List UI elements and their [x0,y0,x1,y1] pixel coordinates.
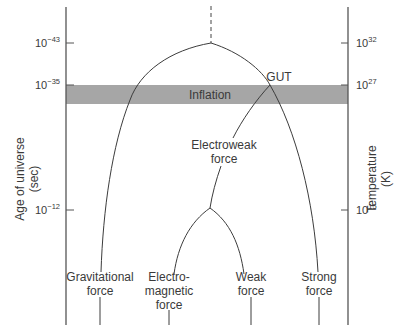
electroweak-branch-lower [210,166,221,208]
weak-label-line1: Weak [226,270,276,284]
left-axis-label-line2: (sec) [27,134,41,224]
right-axis-label: Temperature (K) [365,134,393,224]
strong-label-line1: Strong [294,270,344,284]
electroweak-label-line2: force [184,152,264,166]
weak-force-label: Weak force [226,270,276,298]
electromagnetic-label-line2: magnetic [139,284,199,298]
electromagnetic-branch [174,208,210,274]
gravitational-label-line2: force [60,284,140,298]
right-tick-label-27: 1027 [356,79,377,91]
right-axis-label-line1: Temperature [365,134,379,224]
weak-branch [210,208,244,274]
electroweak-label: Electroweak force [184,138,264,166]
gut-label: GUT [264,70,294,84]
electromagnetic-label-line1: Electro- [139,270,199,284]
left-tick-label-43: 10−43 [35,37,60,49]
weak-label-line2: force [226,284,276,298]
strong-force-label: Strong force [294,270,344,298]
strong-label-line2: force [294,284,344,298]
electroweak-label-line1: Electroweak [184,138,264,152]
electromagnetic-force-label: Electro- magnetic force [139,270,199,312]
left-axis-label-line1: Age of universe [13,134,27,224]
left-axis-label: Age of universe (sec) [13,134,41,224]
inflation-label: Inflation [175,88,245,102]
gravitational-label-line1: Gravitational [60,270,140,284]
left-tick-label-35: 10−35 [35,79,60,91]
right-axis-label-line2: (K) [379,134,393,224]
electromagnetic-label-line3: force [139,298,199,312]
gravitational-force-label: Gravitational force [60,270,140,298]
right-tick-label-32: 1032 [356,37,377,49]
